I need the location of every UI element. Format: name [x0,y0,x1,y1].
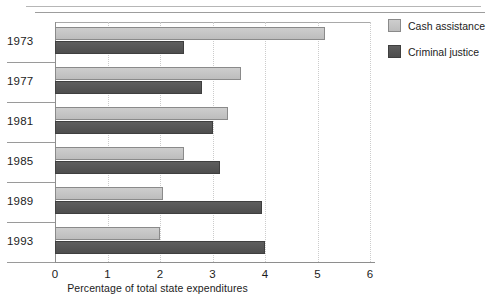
x-tick-label-3: 3 [201,268,225,280]
x-tick-label-6: 6 [358,268,382,280]
gridline-x-6 [370,22,372,262]
y-category-label-1989: 1989 [7,195,49,207]
chart-legend: Cash assistanceCriminal justice [388,19,487,71]
bar-group-1973: 1973 [55,22,370,62]
y-category-label-1985: 1985 [7,155,49,167]
legend-label: Criminal justice [408,46,479,58]
bar-1977-criminal-justice [55,81,202,94]
x-tick-label-4: 4 [253,268,277,280]
bar-1993-criminal-justice [55,241,265,254]
y-category-label-1993: 1993 [7,235,49,247]
x-axis-line [45,262,375,263]
y-category-label-1981: 1981 [7,115,49,127]
y-category-label-1973: 1973 [7,35,49,47]
x-tick-label-0: 0 [43,268,67,280]
category-separator [7,262,55,263]
category-separator [7,142,55,143]
bar-1989-criminal-justice [55,201,262,214]
plot-area: 0123456197319771981198519891993 [55,22,370,262]
bar-group-1985: 1985 [55,142,370,182]
bar-1989-cash-assistance [55,187,163,200]
bar-group-1981: 1981 [55,102,370,142]
bar-group-1989: 1989 [55,182,370,222]
cash-swatch-icon [388,19,401,32]
x-axis-title: Percentage of total state expenditures [0,282,315,294]
bar-1977-cash-assistance [55,67,241,80]
bar-1973-criminal-justice [55,41,184,54]
bar-group-1993: 1993 [55,222,370,262]
legend-label: Cash assistance [408,20,485,32]
bar-1985-criminal-justice [55,161,220,174]
bar-1981-cash-assistance [55,107,228,120]
x-tick-label-2: 2 [148,268,172,280]
category-separator [7,62,55,63]
bar-1993-cash-assistance [55,227,160,240]
legend-item: Cash assistance [388,19,487,32]
legend-item: Criminal justice [388,45,487,58]
top-rule-upper [26,6,481,7]
bar-group-1977: 1977 [55,62,370,102]
x-tick-label-5: 5 [306,268,330,280]
category-separator [7,182,55,183]
bar-1985-cash-assistance [55,147,184,160]
top-rule-lower [35,12,485,13]
y-category-label-1977: 1977 [7,75,49,87]
category-separator [7,222,55,223]
bar-1981-criminal-justice [55,121,213,134]
bar-1973-cash-assistance [55,27,325,40]
category-separator [7,102,55,103]
criminal-swatch-icon [388,45,401,58]
x-tick-label-1: 1 [96,268,120,280]
